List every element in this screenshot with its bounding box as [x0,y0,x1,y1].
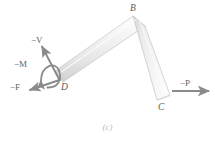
bar-segment-DB [55,16,145,82]
bar-bend-crease [145,26,146,27]
figure-container: B C D −V −M −F −P (c) [0,0,215,145]
point-label-C: C [158,103,165,113]
node-dot-D [59,79,61,81]
vector-minus-V-arrow [42,47,60,81]
vector-label-minus-V: −V [31,36,43,45]
vector-label-minus-F: −F [10,83,20,92]
figure-caption: (c) [0,122,215,132]
point-label-B: B [130,4,136,14]
bar-highlight-upper [58,19,137,74]
vector-label-minus-M: −M [14,60,27,69]
vector-group-D [30,47,60,91]
point-label-D: D [61,83,68,93]
bent-bar [55,16,170,101]
vector-label-minus-P: −P [180,79,190,88]
bar-segment-BC [133,16,170,100]
